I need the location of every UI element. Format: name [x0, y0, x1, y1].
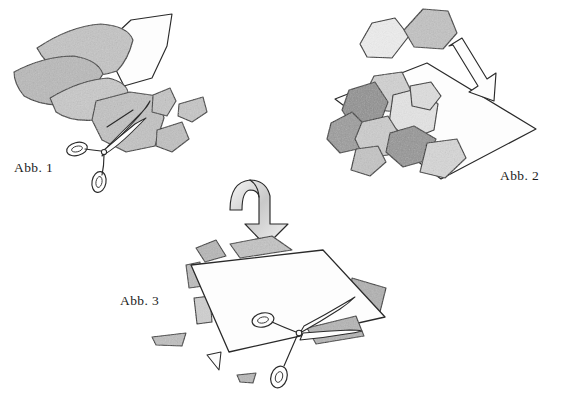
figure-2-label: Abb. 2 [500, 168, 539, 183]
fig3-scrap-small [237, 373, 256, 383]
fig1-scissors-pivot [101, 149, 106, 154]
figure-3-label: Abb. 3 [120, 293, 159, 308]
fig3-scissors-pivot [296, 330, 302, 336]
figure-1-label: Abb. 1 [14, 160, 53, 175]
figure-plate: Abb. 1 Abb. 2 [0, 0, 565, 409]
illustration-canvas: Abb. 1 Abb. 2 [0, 0, 565, 409]
